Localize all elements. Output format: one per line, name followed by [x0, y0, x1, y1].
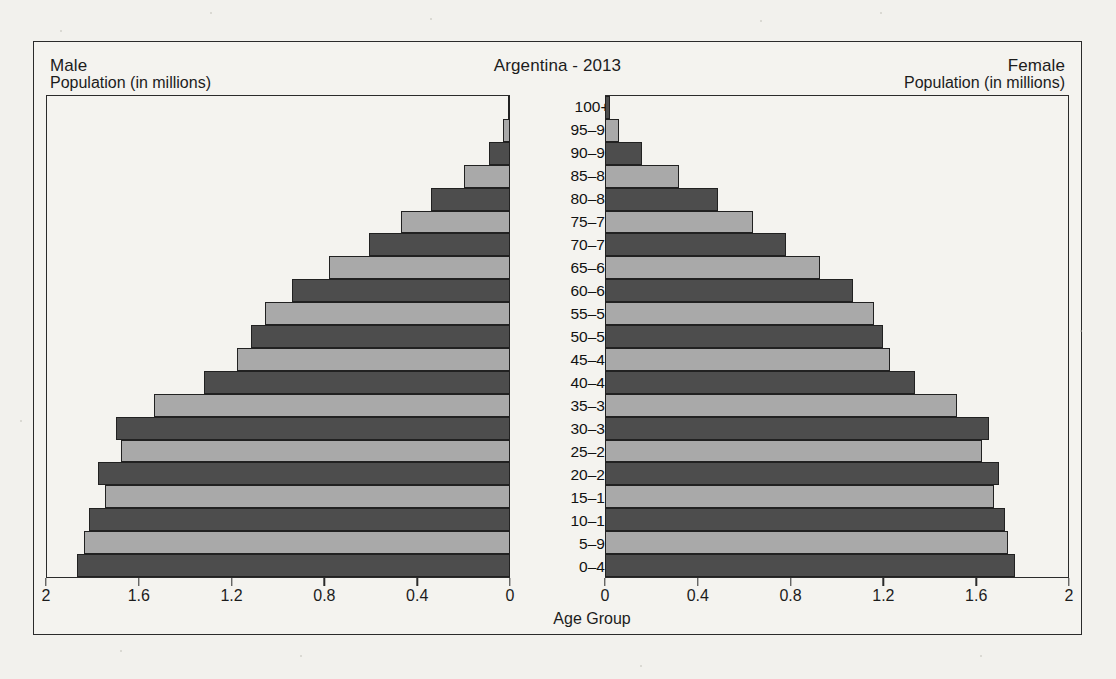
female-bar-60-64: [605, 279, 853, 302]
axis-tick: [790, 578, 791, 586]
bar-row: [605, 256, 1068, 279]
scan-speck: [20, 420, 22, 422]
axis-tick-label: 2: [42, 587, 51, 605]
axis-tick: [1068, 578, 1069, 586]
male-bar-25-29: [121, 440, 510, 463]
female-bar-100+: [605, 96, 610, 119]
axis-tick: [324, 578, 325, 586]
bar-row: [47, 440, 510, 463]
bar-row: [47, 348, 510, 371]
male-bar-5-9: [84, 531, 510, 554]
male-bar-45-49: [237, 348, 510, 371]
female-bar-25-29: [605, 440, 982, 463]
bar-row: [605, 302, 1068, 325]
female-bar-20-24: [605, 462, 999, 485]
bar-row: [47, 142, 510, 165]
axis-tick-label: 2: [1065, 587, 1074, 605]
male-bars: [47, 96, 510, 577]
axis-tick-label: 0.8: [313, 587, 335, 605]
female-bar-75-79: [605, 211, 753, 234]
axis-tick-label: 0: [506, 587, 515, 605]
male-bar-50-54: [251, 325, 510, 348]
scanned-page: Male Argentina - 2013 Female 0–45–910–14…: [0, 0, 1116, 679]
bar-row: [47, 96, 510, 119]
bar-row: [47, 302, 510, 325]
bar-row: [605, 142, 1068, 165]
male-bar-80-84: [431, 188, 510, 211]
bar-row: [47, 417, 510, 440]
chart-title: Argentina - 2013: [494, 56, 621, 76]
bar-row: [47, 188, 510, 211]
bar-row: [605, 371, 1068, 394]
axis-tick-label: 0: [601, 587, 610, 605]
bar-row: [47, 211, 510, 234]
female-bar-95-99: [605, 119, 619, 142]
female-plot-panel: [605, 95, 1069, 578]
bar-row: [605, 279, 1068, 302]
female-bar-70-74: [605, 233, 786, 256]
scan-speck: [760, 20, 762, 22]
bar-row: [47, 119, 510, 142]
axis-tick: [138, 578, 139, 586]
scan-speck: [120, 650, 122, 652]
female-bar-90-94: [605, 142, 642, 165]
bar-row: [47, 394, 510, 417]
male-bar-100+: [508, 96, 510, 119]
male-x-axis: 21.61.20.80.40: [46, 578, 510, 624]
bar-row: [47, 554, 510, 577]
male-bar-60-64: [292, 279, 510, 302]
female-side-label: Female: [1008, 56, 1065, 76]
axis-tick-label: 1.2: [872, 587, 894, 605]
scan-speck: [1080, 330, 1082, 332]
axis-tick-label: 1.6: [965, 587, 987, 605]
axis-tick-label: 0.4: [687, 587, 709, 605]
male-bar-30-34: [116, 417, 510, 440]
female-x-axis: 00.40.81.21.62: [605, 578, 1069, 624]
female-bar-50-54: [605, 325, 883, 348]
male-bar-20-24: [98, 462, 510, 485]
axis-tick-label: 1.2: [220, 587, 242, 605]
male-bar-40-44: [204, 371, 510, 394]
axis-tick-label: 0.8: [779, 587, 801, 605]
bar-row: [605, 531, 1068, 554]
female-bar-55-59: [605, 302, 874, 325]
male-bar-0-4: [77, 554, 510, 577]
bar-row: [605, 508, 1068, 531]
axis-tick-label: 0.4: [406, 587, 428, 605]
axis-tick: [416, 578, 417, 586]
bar-row: [605, 417, 1068, 440]
female-bar-35-39: [605, 394, 957, 417]
female-bar-10-14: [605, 508, 1005, 531]
female-bar-5-9: [605, 531, 1008, 554]
male-bar-65-69: [329, 256, 510, 279]
male-bar-90-94: [489, 142, 510, 165]
bar-row: [47, 531, 510, 554]
axis-tick: [697, 578, 698, 586]
age-group-axis-title: Age Group: [553, 610, 630, 628]
male-side-label: Male: [50, 56, 87, 76]
bar-row: [605, 554, 1068, 577]
scan-speck: [430, 18, 432, 20]
scan-speck: [640, 665, 642, 667]
bar-row: [605, 440, 1068, 463]
bar-row: [47, 485, 510, 508]
female-bar-30-34: [605, 417, 989, 440]
male-plot-panel: [46, 95, 510, 578]
scan-speck: [300, 655, 302, 657]
male-bar-55-59: [265, 302, 510, 325]
male-bar-70-74: [369, 233, 510, 256]
bar-row: [47, 462, 510, 485]
male-bar-35-39: [154, 394, 511, 417]
axis-tick: [604, 578, 605, 586]
female-bar-85-89: [605, 165, 679, 188]
axis-tick: [975, 578, 976, 586]
female-bar-0-4: [605, 554, 1015, 577]
male-bar-10-14: [89, 508, 510, 531]
scan-speck: [210, 12, 212, 14]
scan-speck: [880, 12, 882, 14]
male-bar-75-79: [401, 211, 510, 234]
bar-row: [605, 325, 1068, 348]
bar-row: [47, 233, 510, 256]
male-bar-95-99: [503, 119, 510, 142]
bar-row: [47, 256, 510, 279]
